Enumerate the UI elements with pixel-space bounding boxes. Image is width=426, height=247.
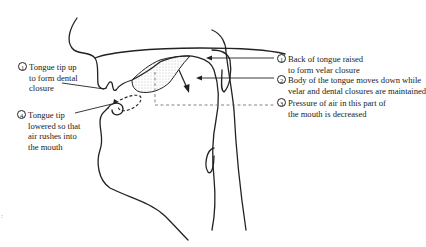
lower-lip-line <box>108 103 123 115</box>
label-pressure-decreased: 3Pressure of air in this part of the mou… <box>277 98 386 119</box>
chin-neck-line <box>98 108 188 240</box>
upper-lip-line <box>106 82 116 91</box>
label-velar-closure: 1Back of tongue raised to form velar clo… <box>277 54 363 75</box>
lowered-tongue-tip-dashed <box>118 95 141 111</box>
pharynx-back-wall <box>212 30 246 230</box>
number-badge: 1 <box>18 62 27 71</box>
arrowhead-body <box>196 76 202 81</box>
number-badge: 3 <box>277 98 286 107</box>
arrowhead-velar <box>206 56 212 61</box>
leader-tongue-tip-lowered <box>75 103 116 113</box>
tongue-down-arrow-head <box>184 84 190 93</box>
stray-mark: : <box>1 212 3 220</box>
label-tongue-body-down: 2Body of the tongue moves down while vel… <box>277 75 426 96</box>
number-badge: 1 <box>277 54 286 63</box>
tongue-dorsum-line <box>168 56 218 230</box>
label-tongue-tip-lowered: 4Tongue tip lowered so that air rushes i… <box>17 110 81 152</box>
number-badge: 4 <box>17 110 26 119</box>
number-badge: 2 <box>277 75 286 84</box>
label-tongue-tip-up: 1Tongue tip up to form dental closure <box>18 62 78 94</box>
